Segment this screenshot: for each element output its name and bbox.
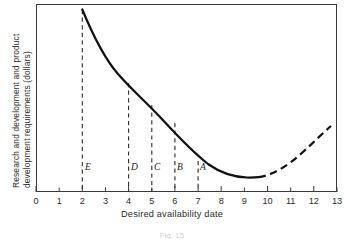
point-label-E: E: [85, 163, 91, 173]
x-tick-label-8: 8: [219, 196, 224, 206]
x-tick-label-5: 5: [149, 196, 154, 206]
x-tick-label-3: 3: [103, 196, 108, 206]
x-tick-label-4: 4: [126, 196, 131, 206]
plot-area: [36, 4, 337, 192]
x-tick-label-6: 6: [172, 196, 177, 206]
y-axis-title: Research and development and product dev…: [0, 0, 30, 196]
figure-container: Research and development and product dev…: [0, 0, 344, 243]
y-axis-title-line-1: Research and development and product: [11, 34, 21, 188]
x-tick-label-9: 9: [242, 196, 247, 206]
y-axis-title-line-2: development requirements (dollars): [22, 51, 32, 188]
x-tick-label-2: 2: [80, 196, 85, 206]
point-label-C: C: [154, 163, 160, 173]
x-tick-label-7: 7: [196, 196, 201, 206]
point-label-D: D: [131, 163, 138, 173]
x-tick-label-1: 1: [57, 196, 62, 206]
figure-caption: Fig. 15: [0, 231, 344, 239]
x-tick-label-11: 11: [286, 196, 296, 206]
x-tick-label-0: 0: [33, 196, 38, 206]
x-tick-label-12: 12: [309, 196, 319, 206]
x-tick-label-13: 13: [332, 196, 342, 206]
x-axis-title: Desired availability date: [0, 209, 344, 219]
point-label-B: B: [177, 163, 183, 173]
x-tick-label-10: 10: [262, 196, 272, 206]
point-label-A: A: [200, 163, 206, 173]
